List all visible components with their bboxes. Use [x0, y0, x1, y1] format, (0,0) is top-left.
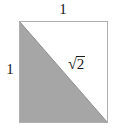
figure-canvas [0, 0, 121, 130]
radical-expression: √2 [68, 56, 85, 73]
radicand-value: 2 [76, 56, 86, 73]
top-side-length-label: 1 [56, 2, 70, 17]
hypotenuse-length-label: √2 [68, 56, 85, 73]
left-side-length-label: 1 [3, 62, 17, 77]
geometry-figure: 1 1 √2 [0, 0, 121, 130]
